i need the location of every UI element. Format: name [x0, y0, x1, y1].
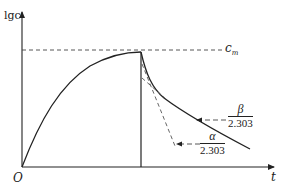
absorption-curve [22, 52, 141, 167]
decay-curve [141, 52, 250, 149]
chart-canvas [0, 0, 285, 188]
cm-label: cm [225, 42, 238, 57]
cm-label-sub: m [232, 49, 239, 57]
alpha-slope-label: α 2.303 [200, 130, 225, 156]
alpha-denominator: 2.303 [200, 145, 225, 156]
beta-numerator: β [236, 103, 244, 115]
beta-denominator: 2.303 [228, 118, 253, 129]
alpha-numerator: α [208, 130, 216, 142]
x-axis-label: t [271, 171, 276, 183]
y-axis-label: lgc [4, 10, 21, 21]
origin-label: O [13, 172, 23, 184]
beta-slope-label: β 2.303 [228, 103, 253, 129]
cm-label-main: c [225, 41, 232, 55]
alpha-extrapolation-line [142, 64, 175, 146]
